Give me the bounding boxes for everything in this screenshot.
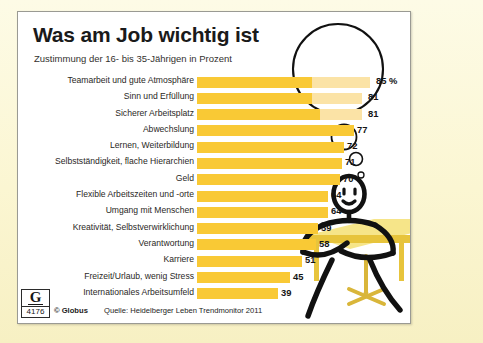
table-row: Karriere 51 — [18, 253, 411, 269]
page-subtitle: Zustimmung der 16- bis 35-Jährigen in Pr… — [34, 53, 232, 64]
bar-value: 77 — [357, 124, 367, 135]
table-row: Umgang mit Menschen 64 — [18, 204, 411, 220]
bar — [197, 174, 340, 185]
bar-label: Geld — [17, 173, 194, 183]
bar-label: Sicherer Arbeitsplatz — [17, 108, 194, 118]
table-row: Freizeit/Urlaub, wenig Stress 45 — [18, 270, 411, 286]
bar — [197, 158, 342, 169]
bar-value: 81 — [368, 91, 378, 102]
bar-label: Umgang mit Menschen — [17, 205, 194, 215]
footer: G 4176 © Globus Quelle: Heidelberger Leb… — [18, 293, 411, 319]
bar-value: 72 — [347, 140, 357, 151]
bar-label: Kreativität, Selbstverwirklichung — [17, 222, 194, 232]
table-row: Sicherer Arbeitsplatz 81 — [18, 107, 411, 123]
bar-value: 71 — [345, 156, 355, 167]
bar — [197, 272, 290, 283]
bar — [197, 256, 302, 267]
table-row: Abwechslung 77 — [18, 123, 411, 139]
bar-label: Freizeit/Urlaub, wenig Stress — [17, 271, 194, 281]
bar-label: Flexible Arbeitszeiten und -orte — [17, 189, 194, 199]
bar-label: Selbstständigkeit, flache Hierarchien — [17, 156, 194, 166]
table-row: Teamarbeit und gute Atmosphäre 85 % — [18, 74, 411, 90]
bar-label: Teamarbeit und gute Atmosphäre — [17, 75, 194, 85]
table-row: Verantwortung 58 — [18, 237, 411, 253]
page-title: Was am Job wichtig ist — [33, 23, 259, 47]
table-row: Flexible Arbeitszeiten und -orte 64 — [18, 188, 411, 204]
bar-label: Abwechslung — [17, 124, 194, 134]
copyright-text: © Globus — [54, 306, 88, 315]
globus-logo-letter: G — [22, 290, 49, 304]
bar — [197, 191, 328, 202]
bar-value: 45 — [293, 271, 303, 282]
bar-value: 81 — [368, 108, 378, 119]
globus-logo: G 4176 — [21, 289, 50, 318]
bar-value: 70 — [343, 173, 353, 184]
bar-value: 51 — [305, 254, 315, 265]
table-row: Kreativität, Selbstverwirklichung 59 — [18, 221, 411, 237]
bar-value: 85 % — [376, 75, 397, 86]
globus-logo-number: 4176 — [22, 306, 49, 317]
infographic-card: Was am Job wichtig ist Zustimmung der 16… — [17, 11, 411, 324]
bar — [197, 125, 354, 136]
bar-value: 64 — [331, 205, 341, 216]
bar — [197, 239, 316, 250]
bar-label: Karriere — [17, 254, 194, 264]
source-text: Quelle: Heidelberger Leben Trendmonitor … — [104, 306, 262, 315]
bar-label: Verantwortung — [17, 238, 194, 248]
table-row: Sinn und Erfüllung 81 — [18, 90, 411, 106]
bar — [197, 93, 362, 104]
bar-label: Sinn und Erfüllung — [17, 91, 194, 101]
bar — [197, 77, 370, 88]
bar — [197, 142, 344, 153]
bar-label: Lernen, Weiterbildung — [17, 140, 194, 150]
table-row: Geld 70 — [18, 172, 411, 188]
bar — [197, 207, 328, 218]
infographic-canvas: Was am Job wichtig ist Zustimmung der 16… — [0, 0, 483, 343]
bar — [197, 223, 318, 234]
bar-value: 64 — [331, 189, 341, 200]
table-row: Selbstständigkeit, flache Hierarchien 71 — [18, 155, 411, 171]
bar-value: 59 — [321, 222, 331, 233]
bar-value: 58 — [319, 238, 329, 249]
table-row: Lernen, Weiterbildung 72 — [18, 139, 411, 155]
bar-chart: Teamarbeit und gute Atmosphäre 85 % Sinn… — [18, 74, 411, 302]
bar — [197, 109, 362, 120]
